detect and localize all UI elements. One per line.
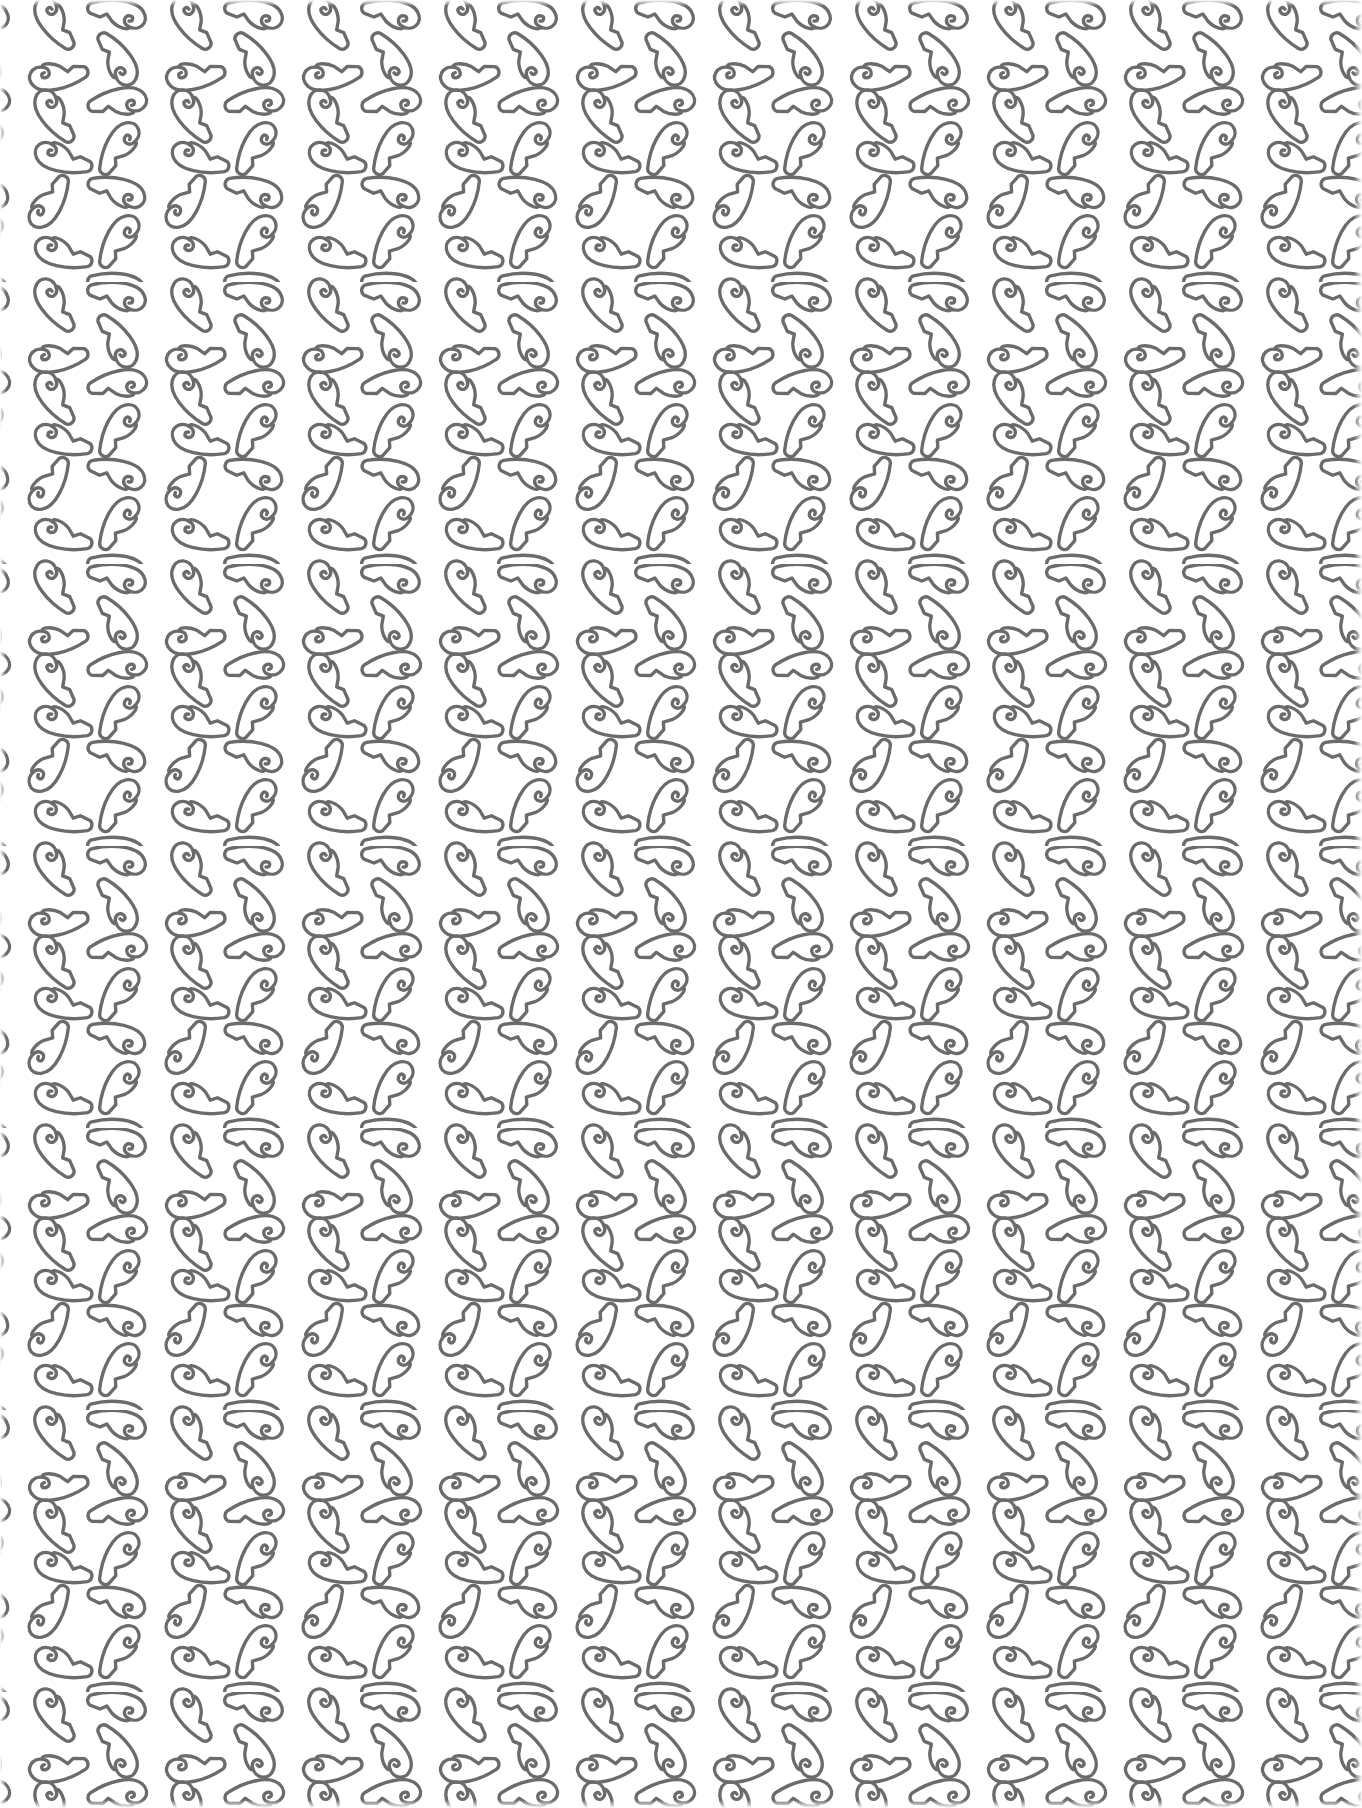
- pattern-fill: [0, 0, 1362, 1808]
- paisley-pattern-background: [0, 0, 1362, 1808]
